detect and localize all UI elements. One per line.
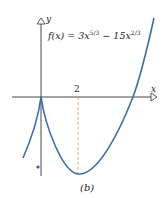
tick-label-2: 2 bbox=[74, 84, 80, 94]
equation-label: f(x) = 3x5/3 − 15x2/3 bbox=[48, 29, 140, 41]
x-axis-label: x bbox=[151, 84, 156, 94]
curve-right-branch bbox=[41, 18, 154, 174]
y-axis-arrow-icon bbox=[37, 18, 45, 24]
curve-left-branch bbox=[23, 97, 41, 158]
point-marker bbox=[36, 165, 39, 168]
x-axis-arrow-icon bbox=[151, 93, 157, 101]
figure-caption: (b) bbox=[80, 182, 94, 193]
y-axis-label: y bbox=[46, 14, 51, 24]
